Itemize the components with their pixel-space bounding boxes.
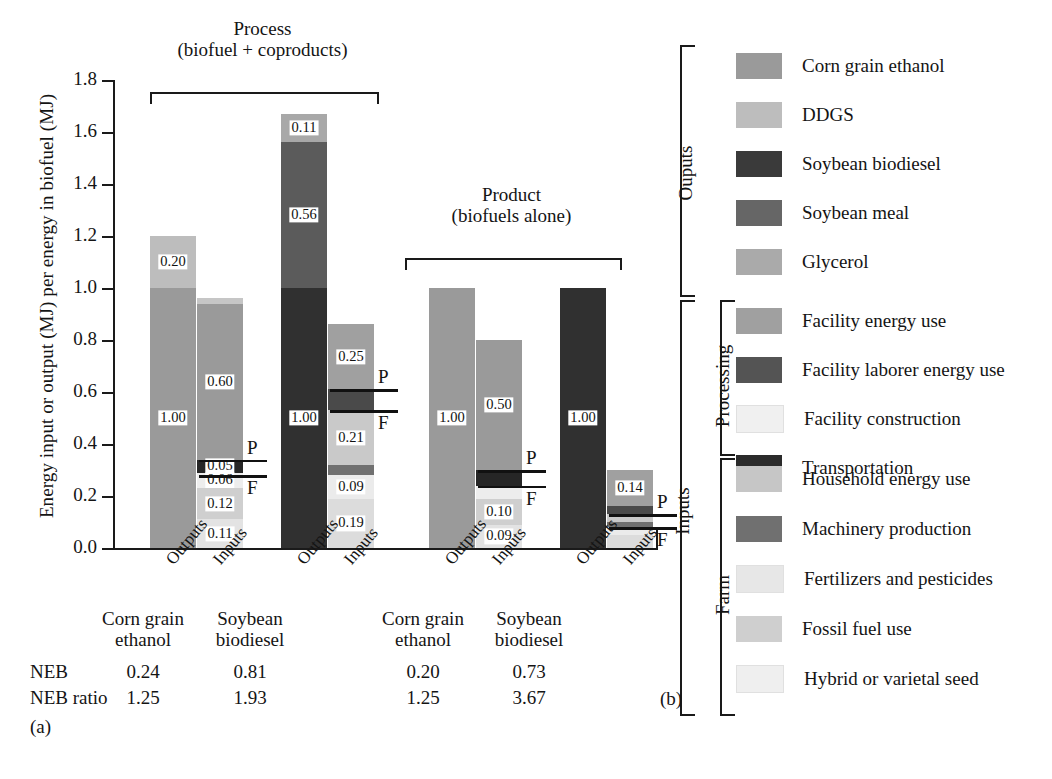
x-category-label: Soybeanbiodiesel <box>454 608 604 651</box>
y-tick-label: 0.8 <box>51 328 97 350</box>
bar-segment <box>328 465 374 475</box>
legend-item[interactable]: Household energy use <box>736 465 971 493</box>
legend-swatch <box>736 565 784 593</box>
pf-marker-label-f: F <box>247 478 258 497</box>
x-category-line1: Soybean <box>454 608 604 629</box>
x-category-line2: biodiesel <box>175 629 325 650</box>
y-axis-line <box>113 80 115 550</box>
legend-label: Facility laborer energy use <box>802 359 1005 381</box>
legend-panel-b: Corn grain ethanolDDGSSoybean biodieselS… <box>660 0 1052 779</box>
legend-item[interactable]: Facility construction <box>736 405 961 433</box>
legend-item[interactable]: Soybean biodiesel <box>736 150 941 178</box>
neb-cell: 0.24 <box>83 661 203 683</box>
y-tick-label: 1.0 <box>51 276 97 298</box>
y-tick-label: 0.0 <box>51 536 97 558</box>
legend-swatch <box>736 665 784 693</box>
legend-swatch <box>736 249 782 275</box>
segment-value-label: 1.00 <box>437 410 466 425</box>
segment-value-label: 0.12 <box>205 496 234 511</box>
y-tick <box>102 444 113 446</box>
group-bracket <box>405 258 622 270</box>
segment-value-label: 0.50 <box>484 397 513 412</box>
bar-segment: 1.00 <box>429 288 475 548</box>
legend-item[interactable]: Hybrid or varietal seed <box>736 665 979 693</box>
y-tick-label: 0.2 <box>51 484 97 506</box>
bar-segment: 1.00 <box>281 288 327 548</box>
y-tick <box>102 548 113 550</box>
x-category-line2: biodiesel <box>454 629 604 650</box>
segment-value-label: 0.56 <box>289 208 318 223</box>
legend-label: DDGS <box>802 104 854 126</box>
group-title: Process(biofuel + coproducts) <box>150 18 375 61</box>
legend-item[interactable]: DDGS <box>736 101 854 129</box>
bar-segment: 0.12 <box>197 488 243 519</box>
y-tick-label: 1.8 <box>51 68 97 90</box>
legend-label: Machinery production <box>802 518 971 540</box>
legend-label: Soybean biodiesel <box>802 153 941 175</box>
outputs-bracket-label: Ouputs <box>675 118 697 228</box>
bar-outputs: 1.00 <box>560 288 606 548</box>
segment-value-label: 0.14 <box>615 481 644 496</box>
bar-segment: 0.20 <box>150 236 196 288</box>
y-tick <box>102 392 113 394</box>
x-category-line1: Soybean <box>175 608 325 629</box>
pf-marker-line-p <box>478 470 546 473</box>
neb-cell: 3.67 <box>469 687 589 709</box>
bar-inputs: 0.500.100.09 <box>476 340 522 548</box>
bar-inputs: 0.250.210.090.19 <box>328 324 374 548</box>
legend-item[interactable]: Corn grain ethanol <box>736 52 944 80</box>
panel-b-tag: (b) <box>660 688 682 710</box>
neb-cell: 0.73 <box>469 661 589 683</box>
segment-value-label: 0.11 <box>290 121 319 136</box>
neb-cell: 0.20 <box>363 661 483 683</box>
bar-segment: 0.09 <box>328 475 374 498</box>
pf-marker-label-f: F <box>378 413 389 432</box>
segment-value-label: 1.00 <box>568 410 597 425</box>
bar-segment: 0.25 <box>328 324 374 389</box>
legend-swatch <box>736 308 782 334</box>
bar-outputs: 1.00 <box>429 288 475 548</box>
legend-swatch <box>736 102 782 128</box>
group-title-line1: Product <box>405 184 618 205</box>
x-category-label: Soybeanbiodiesel <box>175 608 325 651</box>
neb-row-key: NEB <box>30 661 68 683</box>
y-tick-label: 0.6 <box>51 380 97 402</box>
legend-item[interactable]: Facility laborer energy use <box>736 356 1005 384</box>
bar-outputs: 0.110.561.00 <box>281 114 327 548</box>
segment-value-label: 0.25 <box>336 349 365 364</box>
pf-marker-line-p <box>199 460 267 463</box>
legend-label: Hybrid or varietal seed <box>804 668 979 690</box>
legend-item[interactable]: Soybean meal <box>736 199 909 227</box>
processing-bracket-label: Processing <box>712 329 734 444</box>
bar-outputs: 0.201.00 <box>150 236 196 548</box>
pf-marker-label-p: P <box>526 448 537 467</box>
bar-segment <box>607 506 653 514</box>
plot-area: 0.00.20.40.60.81.01.21.41.61.8 0.201.000… <box>113 80 658 550</box>
legend-swatch <box>736 516 782 542</box>
y-tick <box>102 340 113 342</box>
bar-segment: 0.11 <box>281 114 327 143</box>
neb-table-row: NEB ratio1.251.931.253.67 <box>30 687 650 713</box>
panel-a-tag: (a) <box>30 716 51 738</box>
legend-item[interactable]: Fertilizers and pesticides <box>736 565 993 593</box>
bar-segment: 0.60 <box>197 304 243 460</box>
bar-segment: 0.50 <box>476 340 522 470</box>
segment-value-label: 1.00 <box>289 410 318 425</box>
bar-segment: 0.56 <box>281 142 327 288</box>
neb-cell: 1.25 <box>363 687 483 709</box>
legend-label: Soybean meal <box>802 202 909 224</box>
legend-item[interactable]: Machinery production <box>736 515 971 543</box>
pf-marker-label-p: P <box>378 367 389 386</box>
legend-swatch <box>736 405 784 433</box>
segment-value-label: 0.20 <box>158 254 187 269</box>
group-title-line2: (biofuels alone) <box>405 205 618 226</box>
y-tick-label: 1.2 <box>51 224 97 246</box>
segment-value-label: 0.09 <box>336 479 365 494</box>
legend-item[interactable]: Facility energy use <box>736 307 946 335</box>
legend-label: Glycerol <box>802 251 868 273</box>
legend-item[interactable]: Fossil fuel use <box>736 615 912 643</box>
y-tick-label: 0.4 <box>51 432 97 454</box>
segment-value-label: 0.10 <box>484 504 513 519</box>
legend-swatch <box>736 151 782 177</box>
legend-item[interactable]: Glycerol <box>736 248 868 276</box>
